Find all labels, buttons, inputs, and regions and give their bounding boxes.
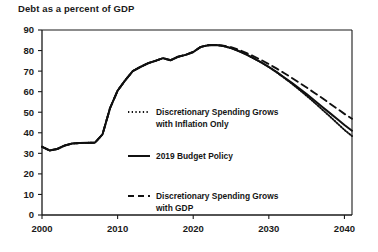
legend-label-2-line2: with GDP	[155, 203, 194, 213]
legend-label-0-line2: with Inflation Only	[155, 119, 229, 129]
y-tick-label-80: 80	[23, 45, 34, 56]
chart-plot-area: 0102030405060708090 20002010202020302040…	[0, 0, 378, 252]
series-line-2	[42, 45, 352, 151]
y-tick-label-50: 50	[23, 107, 34, 118]
x-tick-label-2040: 2040	[334, 223, 355, 234]
x-tick-label-2030: 2030	[258, 223, 279, 234]
y-tick-label-0: 0	[29, 209, 34, 220]
x-tick-label-2020: 2020	[183, 223, 204, 234]
data-series-layer	[42, 45, 352, 151]
chart-legend: Discretionary Spending Growswith Inflati…	[128, 107, 279, 212]
y-tick-label-20: 20	[23, 168, 34, 179]
legend-label-1: 2019 Budget Policy	[156, 151, 233, 161]
y-tick-label-40: 40	[23, 127, 34, 138]
y-tick-label-90: 90	[23, 24, 34, 35]
series-line-1	[42, 45, 352, 150]
y-tick-label-10: 10	[23, 189, 34, 200]
x-tick-label-2010: 2010	[107, 223, 128, 234]
y-axis-tick-labels: 0102030405060708090	[23, 24, 34, 220]
chart-figure: Debt as a percent of GDP 010203040506070…	[0, 0, 378, 252]
series-line-0	[42, 45, 352, 150]
y-tick-label-60: 60	[23, 86, 34, 97]
legend-label-0: Discretionary Spending Grows	[156, 107, 279, 117]
y-tick-label-70: 70	[23, 66, 34, 77]
legend-label-2: Discretionary Spending Grows	[156, 191, 279, 201]
x-tick-label-2000: 2000	[31, 223, 52, 234]
y-tick-label-30: 30	[23, 148, 34, 159]
x-axis-tick-labels: 20002010202020302040	[31, 223, 355, 234]
